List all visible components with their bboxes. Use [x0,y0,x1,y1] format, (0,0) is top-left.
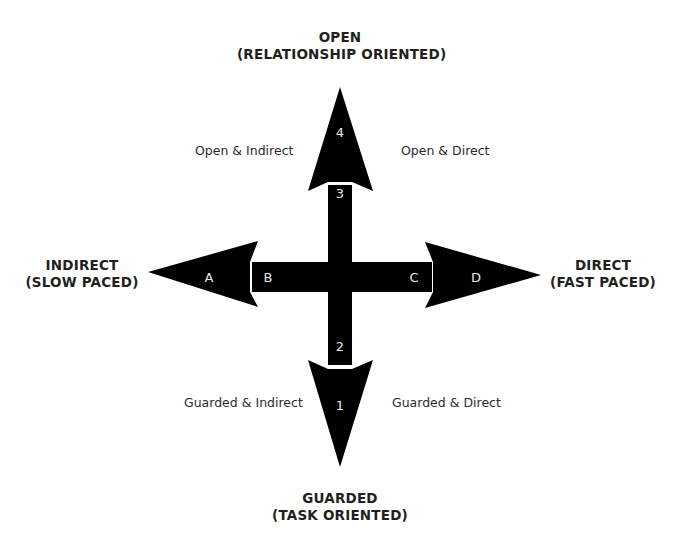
marker-1: 1 [336,398,344,413]
marker-d: D [471,270,481,285]
horizontal-arrow-shaft [252,262,432,292]
marker-a: A [205,270,214,285]
arrow-down-icon [308,360,373,467]
arrow-left-icon [148,241,258,307]
cross-arrows: 4 3 2 1 A B C D [0,0,675,549]
marker-2: 2 [336,339,344,354]
marker-4: 4 [336,125,344,140]
marker-b: B [264,270,273,285]
marker-c: C [409,270,418,285]
marker-3: 3 [336,186,344,201]
arrow-right-icon [425,242,541,308]
